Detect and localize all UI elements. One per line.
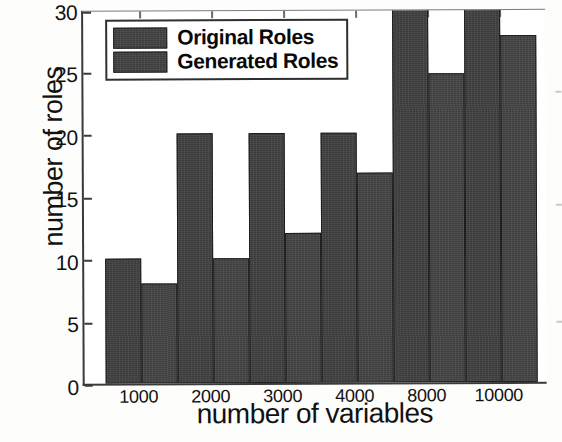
bar-original-10000: [464, 10, 502, 382]
bar-original-3000: [249, 133, 286, 383]
bar-generated-2000: [213, 258, 250, 383]
bar-generated-10000: [500, 35, 538, 382]
legend-label-original: Original Roles: [177, 25, 314, 50]
y-tick-label-10: 10: [18, 251, 78, 275]
bar-original-2000: [177, 133, 214, 383]
plot-area: Original Roles Generated Roles: [81, 9, 547, 386]
bar-generated-3000: [285, 233, 322, 383]
legend: Original Roles Generated Roles: [105, 19, 348, 81]
legend-item-generated: Generated Roles: [113, 49, 338, 74]
bar-original-8000: [392, 10, 430, 383]
y-tick-label-30: 30: [17, 1, 77, 25]
figure-canvas: number of roles 0 5 10 15 20 25 30: [0, 0, 562, 442]
legend-swatch-generated: [113, 51, 167, 72]
bar-original-4000: [321, 133, 358, 383]
scan-artifact-3: [556, 321, 562, 323]
x-axis-title: number of variables: [83, 397, 547, 431]
legend-swatch-original: [113, 27, 167, 48]
scan-artifact-1: [555, 91, 561, 93]
bar-original-1000: [105, 259, 142, 384]
y-tick-label-25: 25: [17, 63, 77, 87]
y-tick-label-15: 15: [18, 188, 78, 212]
y-tick-label-20: 20: [18, 126, 78, 150]
bar-generated-8000: [428, 73, 465, 382]
legend-item-original: Original Roles: [113, 25, 338, 50]
y-tick-0: [85, 385, 93, 387]
y-tick-label-0: 0: [19, 376, 79, 400]
legend-label-generated: Generated Roles: [177, 49, 338, 74]
y-tick-label-5: 5: [18, 313, 78, 337]
scan-artifact-2: [556, 204, 562, 206]
bar-generated-1000: [141, 283, 177, 383]
bar-generated-4000: [357, 173, 394, 383]
